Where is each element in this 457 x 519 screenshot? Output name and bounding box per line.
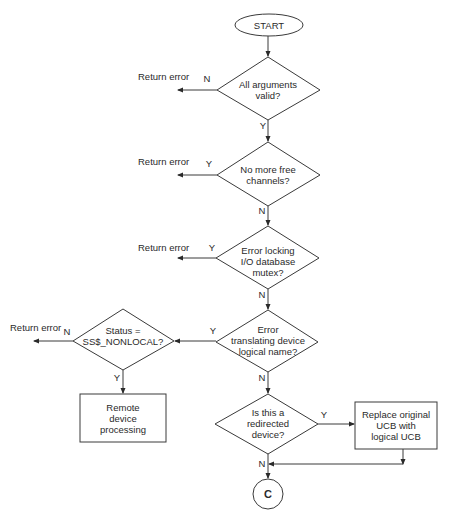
decision-text: All arguments (239, 79, 297, 90)
decision-text: SS$_NONLOCAL? (83, 336, 164, 347)
decision-text: Error locking (241, 245, 294, 256)
branch-label-yes: Y (206, 158, 213, 169)
branch-label-no: N (204, 73, 211, 84)
branch-label-no: N (259, 458, 266, 469)
process-text: Remote (106, 402, 139, 413)
offpage-connector-c: C (253, 479, 283, 509)
branch-label-yes: Y (321, 409, 328, 420)
decision-all-arguments-valid: All arguments valid? (217, 57, 320, 120)
process-replace-ucb: Replace original UCB with logical UCB (355, 402, 437, 449)
decision-text: valid? (256, 90, 281, 101)
branch-label-no: N (259, 289, 266, 300)
branch-label-yes: Y (209, 242, 216, 253)
process-text: UCB with (376, 420, 416, 431)
flowchart: START All arguments valid? N Return erro… (0, 0, 457, 519)
decision-text: redirected (247, 418, 289, 429)
decision-error-locking-mutex: Error locking I/O database mutex? (216, 226, 319, 289)
decision-text: Status = (105, 325, 141, 336)
decision-error-translating-logical-name: Error translating device logical name? (216, 310, 318, 372)
decision-text: translating device (231, 335, 305, 346)
branch-label-yes: Y (260, 120, 267, 131)
decision-status-nonlocal: Status = SS$_NONLOCAL? (73, 309, 174, 370)
return-error-label: Return error (138, 71, 189, 82)
decision-text: mutex? (252, 267, 283, 278)
decision-text: logical name? (239, 346, 298, 357)
branch-label-no: N (259, 205, 266, 216)
process-remote-device-processing: Remote device processing (80, 394, 166, 442)
decision-text: Error (257, 324, 278, 335)
branch-label-yes: Y (210, 325, 217, 336)
start-label: START (254, 20, 284, 31)
decision-redirected-device: Is this a redirected device? (215, 394, 318, 454)
branch-label-yes: Y (114, 372, 121, 383)
return-error-label: Return error (10, 322, 61, 333)
branch-label-no: N (259, 372, 266, 383)
decision-no-more-free-channels: No more free channels? (217, 142, 320, 206)
decision-text: Is this a (252, 407, 285, 418)
decision-text: I/O database (241, 256, 295, 267)
connector-label: C (264, 488, 272, 500)
process-text: Replace original (362, 409, 430, 420)
process-text: logical UCB (371, 431, 421, 442)
decision-text: channels? (246, 175, 289, 186)
process-text: device (109, 413, 136, 424)
branch-label-no: N (64, 326, 71, 337)
return-error-label: Return error (138, 156, 189, 167)
start-terminal: START (235, 14, 303, 36)
decision-text: No more free (240, 164, 295, 175)
decision-text: device? (252, 429, 285, 440)
return-error-label: Return error (138, 242, 189, 253)
process-text: processing (100, 424, 146, 435)
